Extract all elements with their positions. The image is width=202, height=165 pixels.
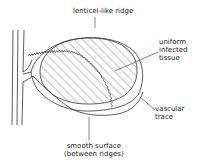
leader-vascular <box>140 97 155 110</box>
label-smooth-surface: smooth surface (between ridges) <box>64 142 124 158</box>
root-stem <box>12 30 24 125</box>
label-smooth-line-2: (between ridges) <box>64 150 124 158</box>
label-vascular-trace: vascular trace <box>155 105 184 121</box>
diagram-drawing <box>0 0 202 165</box>
label-infected-line-1: uniform <box>159 38 188 46</box>
label-smooth-line-1: smooth surface <box>64 142 124 150</box>
infected-tissue-hatching <box>35 33 145 111</box>
root-nodule-diagram: lenticel-like ridge uniform infected tis… <box>0 0 202 165</box>
label-lenticel-ridge-text: lenticel-like ridge <box>73 7 133 15</box>
label-lenticel-ridge: lenticel-like ridge <box>73 7 133 15</box>
label-infected-line-2: infected <box>159 46 188 54</box>
label-infected-tissue: uniform infected tissue <box>159 38 188 62</box>
label-infected-line-3: tissue <box>159 54 188 62</box>
label-vascular-line-2: trace <box>155 113 184 121</box>
label-vascular-line-1: vascular <box>155 105 184 113</box>
